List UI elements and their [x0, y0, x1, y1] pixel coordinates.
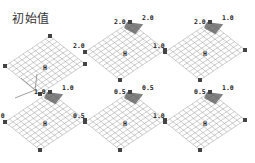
value-label: 1.0	[62, 84, 74, 92]
center-mark: H	[123, 120, 127, 128]
value-label: 2.0	[73, 42, 85, 50]
panel-r0c2: H1.02.01.0	[153, 14, 247, 82]
support-node-icon	[198, 148, 202, 152]
value-label: 1.0	[0, 112, 5, 120]
center-mark: H	[123, 50, 127, 58]
peak-region	[204, 22, 223, 34]
value-label: 2.0	[194, 18, 206, 26]
surface-grid-figure: HH2.02.02.0H1.02.01.0H1.01.01.0H0.50.50.…	[0, 0, 255, 163]
value-label: 2.0	[142, 14, 154, 22]
value-label: 1.0	[153, 42, 165, 50]
support-node-icon	[128, 20, 132, 24]
support-node-icon	[198, 78, 202, 82]
peak-region	[124, 22, 143, 34]
center-mark: H	[43, 120, 47, 128]
center-mark: H	[203, 50, 207, 58]
support-node-icon	[118, 148, 122, 152]
value-label: 1.0	[222, 84, 234, 92]
support-node-icon	[163, 50, 167, 54]
value-label: 0.5	[73, 112, 85, 120]
support-node-icon	[243, 118, 247, 122]
center-mark: H	[43, 64, 47, 72]
peak-region	[124, 92, 143, 104]
support-node-icon	[118, 78, 122, 82]
support-node-icon	[243, 48, 247, 52]
support-node-icon	[163, 120, 167, 124]
support-node-icon	[3, 64, 7, 68]
value-label: 0.5	[142, 84, 154, 92]
support-node-icon	[208, 20, 212, 24]
value-label: 0.5	[114, 88, 126, 96]
support-node-icon	[83, 62, 87, 66]
value-label: 0.5	[194, 88, 206, 96]
support-node-icon	[48, 90, 52, 94]
support-node-icon	[48, 34, 52, 38]
support-node-icon	[83, 50, 87, 54]
panel-r1c2: H1.00.51.0	[153, 84, 247, 152]
support-node-icon	[38, 148, 42, 152]
support-node-icon	[208, 90, 212, 94]
peak-region	[44, 92, 63, 104]
value-label: 1.0	[34, 88, 46, 96]
value-label: 1.0	[222, 14, 234, 22]
support-node-icon	[83, 120, 87, 124]
support-node-icon	[3, 120, 7, 124]
value-label: 1.0	[153, 112, 165, 120]
center-mark: H	[203, 120, 207, 128]
peak-region	[204, 92, 223, 104]
value-label: 2.0	[114, 18, 126, 26]
support-node-icon	[128, 90, 132, 94]
